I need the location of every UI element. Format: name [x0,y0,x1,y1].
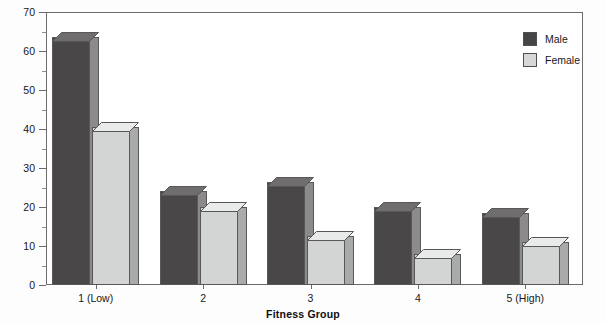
legend-label-male: Male [545,33,568,45]
bar-group [52,12,139,285]
bar-top-face [92,118,139,127]
y-tick [39,129,46,130]
y-tick-label: 50 [0,85,35,96]
bar-side-face [130,127,139,285]
x-tick-label: 5 (High) [507,292,544,304]
bar-front-face [160,191,198,285]
y-tick [39,12,46,13]
bar-top-face [52,28,99,37]
bar-chart: 010203040506070 1 (Low)2345 (High) Fitne… [0,0,606,322]
y-tick [39,168,46,169]
y-tick-label: 10 [0,241,35,252]
x-tick [418,285,419,289]
bar-side-face [238,207,247,285]
y-tick [39,285,46,286]
bar-female-group-2 [200,198,247,285]
bar-top-face [522,233,569,242]
y-tick [39,51,46,52]
bar-top-face [200,198,247,207]
y-tick-label: 30 [0,163,35,174]
bar-group [374,12,461,285]
bar-side-face [560,242,569,285]
bar-top-face [160,182,207,191]
bar-front-face [482,213,520,285]
chart-legend: Male Female [523,28,580,70]
y-tick-label: 40 [0,124,35,135]
x-tick [525,285,526,289]
plot-area [46,12,583,285]
legend-label-female: Female [545,54,580,66]
bar-front-face [374,207,412,285]
x-tick-label: 4 [415,292,421,304]
bar-front-face [92,127,130,285]
y-tick [39,246,46,247]
bar-side-face [345,236,354,285]
x-axis-title: Fitness Group [0,308,606,320]
y-tick-label: 20 [0,202,35,213]
x-tick-label: 1 (Low) [78,292,113,304]
bar-group [267,12,354,285]
bar-top-face [414,245,461,254]
legend-item-female: Female [523,49,580,70]
x-tick [96,285,97,289]
bar-female-group-3 [307,227,354,285]
y-tick-label: 0 [0,280,35,291]
x-tick-label: 3 [308,292,314,304]
bar-top-face [307,227,354,236]
y-tick [39,90,46,91]
x-tick-label: 2 [200,292,206,304]
legend-item-male: Male [523,28,580,49]
bar-top-face [267,173,314,182]
y-tick [39,207,46,208]
y-tick-label: 60 [0,46,35,57]
y-tick-label: 70 [0,7,35,18]
bar-female-group-1 [92,118,139,285]
legend-swatch-female-icon [523,53,537,67]
bar-front-face [522,242,560,285]
bar-female-group-5 [522,233,569,285]
bar-group [160,12,247,285]
legend-swatch-male-icon [523,32,537,46]
bar-top-face [482,204,529,213]
bar-female-group-4 [414,245,461,285]
bar-front-face [267,182,305,285]
bar-front-face [52,37,90,285]
x-tick [311,285,312,289]
bar-top-face [374,198,421,207]
bar-front-face [307,236,345,285]
bar-front-face [200,207,238,285]
x-tick [203,285,204,289]
